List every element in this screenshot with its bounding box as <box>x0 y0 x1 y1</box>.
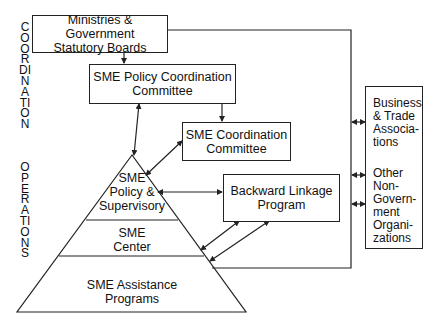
pyramid-tier-supervisory: SME Policy & Supervisory <box>92 171 172 213</box>
side-label-operations: OPERATIONS <box>19 162 31 259</box>
pyramid-tier-center: SME Center <box>92 226 172 254</box>
policy-committee-line-1: SME Policy Coordination <box>93 70 231 84</box>
assistance-line-2: Programs <box>72 292 192 306</box>
business-trade-associations: Business & Trade Associa- tions <box>373 97 422 149</box>
external-organizations-box: Business & Trade Associa- tions Other No… <box>365 86 423 249</box>
coordination-committee-box: SME Coordination Committee <box>182 122 291 161</box>
arrow-policy-committee-to-supervisory <box>134 104 139 155</box>
policy-committee-line-2: Committee <box>132 84 192 98</box>
coordination-committee-line-1: SME Coordination <box>186 128 287 142</box>
business-line-4: tions <box>373 136 422 149</box>
ministries-box: Ministries & Government Statutory Boards <box>32 15 168 53</box>
center-line-2: Center <box>92 240 172 254</box>
ministries-line-2: Statutory Boards <box>53 41 146 55</box>
assistance-line-1: SME Assistance <box>72 278 192 292</box>
center-line-1: SME <box>92 226 172 240</box>
arrow-coordination-to-supervisory <box>146 141 182 175</box>
pyramid-tier-assistance: SME Assistance Programs <box>72 278 192 306</box>
supervisory-line-1: SME <box>92 171 172 185</box>
other-ngo: Other Non- Govern- ment Organi- zations <box>373 167 416 245</box>
backward-linkage-line-2: Program <box>258 198 306 212</box>
ministries-line-1: Ministries & Government <box>33 13 167 41</box>
backward-linkage-line-1: Backward Linkage <box>230 184 332 198</box>
policy-coordination-committee-box: SME Policy Coordination Committee <box>89 64 236 104</box>
arrow-backward-linkage-to-center-2 <box>210 221 269 261</box>
backward-linkage-box: Backward Linkage Program <box>223 174 340 222</box>
side-label-coordination: COORDINATION <box>19 22 31 130</box>
coordination-committee-line-2: Committee <box>206 142 266 156</box>
supervisory-line-3: Supervisory <box>92 199 172 213</box>
supervisory-line-2: Policy & <box>92 185 172 199</box>
ngo-line-6: zations <box>373 232 416 245</box>
